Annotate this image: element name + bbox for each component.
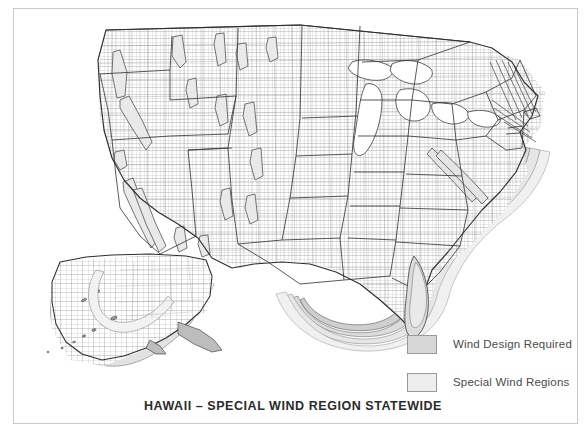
swatch-special-wind-regions xyxy=(407,373,437,392)
map-legend: Wind Design Required Special Wind Region… xyxy=(407,330,572,406)
legend-label-wind-design-required: Wind Design Required xyxy=(453,338,572,350)
legend-item-special-wind-regions: Special Wind Regions xyxy=(407,368,572,396)
legend-label-special-wind-regions: Special Wind Regions xyxy=(453,376,570,388)
page-title: HAWAII – SPECIAL WIND REGION STATEWIDE xyxy=(0,399,586,413)
swatch-wind-design-required xyxy=(407,335,437,354)
legend-item-wind-design-required: Wind Design Required xyxy=(407,330,572,358)
page-root: Wind Design Required Special Wind Region… xyxy=(0,0,586,432)
alaska-inset xyxy=(45,250,225,375)
